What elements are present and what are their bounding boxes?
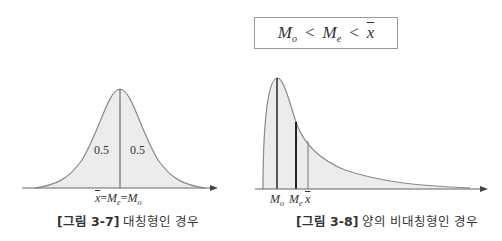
skewed-curve-area [263, 78, 470, 189]
right-area-label: 0.5 [130, 143, 145, 158]
skewed-distribution-chart [255, 78, 488, 192]
left-area-label: 0.5 [94, 143, 109, 158]
right-axis-arrow-icon [480, 186, 488, 192]
median-label: Me [289, 192, 303, 208]
symmetric-distribution-chart [22, 89, 218, 191]
mean-label: x [305, 192, 310, 207]
mode-label: Mo [270, 192, 284, 208]
figure-3-7-caption: [그림 3-7] 대칭형인 경우 [57, 211, 199, 230]
figure-3-8-caption: [그림 3-8] 양의 비대칭형인 경우 [296, 211, 478, 230]
charts-canvas [0, 0, 502, 241]
symmetric-axis-label: x=Me=Mo [95, 191, 141, 207]
left-axis-arrow-icon [210, 185, 218, 191]
